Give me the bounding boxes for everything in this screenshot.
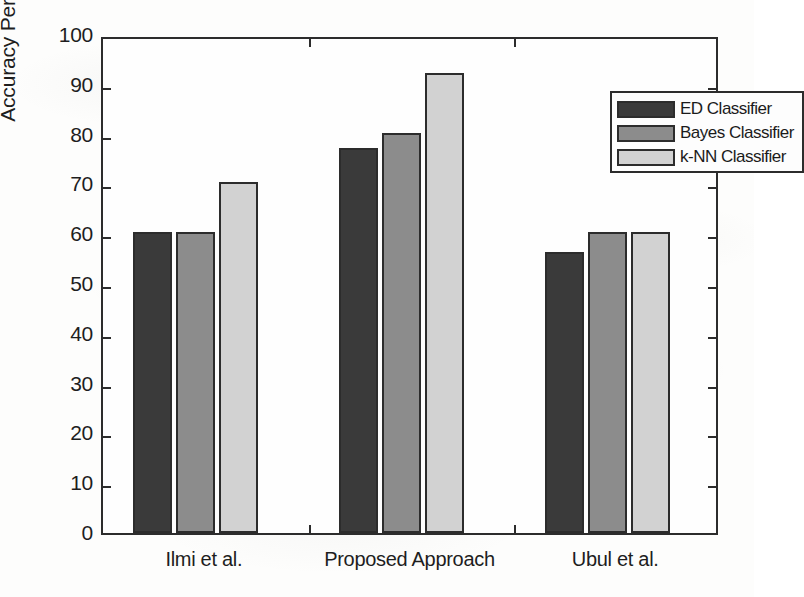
y-tick-label: 40	[33, 322, 93, 346]
y-tick-label: 30	[33, 372, 93, 396]
y-tick-mark	[708, 436, 716, 438]
x-category-label: Ilmi et al.	[94, 548, 314, 571]
y-tick-mark	[103, 486, 111, 488]
y-tick-mark	[708, 387, 716, 389]
y-tick-mark	[708, 237, 716, 239]
y-tick-mark	[708, 287, 716, 289]
bar-bayes-classifier-ubul-et-al	[588, 232, 627, 533]
y-tick-label: 90	[33, 73, 93, 97]
bar-k-nn-classifier-proposed-approach	[425, 73, 464, 533]
y-tick-mark	[708, 187, 716, 189]
y-tick-label: 50	[33, 272, 93, 296]
y-tick-mark	[103, 88, 111, 90]
y-tick-label: 80	[33, 123, 93, 147]
y-tick-label: 70	[33, 172, 93, 196]
y-tick-label: 60	[33, 222, 93, 246]
bar-ed-classifier-proposed-approach	[339, 148, 378, 533]
legend-item: Bayes Classifier	[617, 121, 797, 145]
legend-label-knn-classifier: k-NN Classifier	[680, 147, 786, 167]
x-category-label: Proposed Approach	[300, 548, 520, 571]
legend-item: ED Classifier	[617, 97, 797, 121]
y-tick-mark	[103, 337, 111, 339]
y-tick-mark	[103, 187, 111, 189]
y-tick-mark	[103, 138, 111, 140]
y-tick-mark	[708, 337, 716, 339]
bar-ed-classifier-ilmi-et-al	[133, 232, 172, 533]
y-tick-label: 0	[33, 521, 93, 545]
x-category-label: Ubul et al.	[505, 548, 725, 571]
y-tick-label: 20	[33, 421, 93, 445]
x-tick-mark	[514, 525, 516, 533]
bar-ed-classifier-ubul-et-al	[545, 252, 584, 533]
y-tick-mark	[708, 486, 716, 488]
y-axis-title: Accuracy Percentage (%)	[0, 0, 20, 150]
bar-k-nn-classifier-ilmi-et-al	[219, 182, 258, 533]
legend-swatch-bayes-classifier	[617, 125, 675, 142]
legend-item: k-NN Classifier	[617, 145, 797, 169]
bar-bayes-classifier-ilmi-et-al	[176, 232, 215, 533]
plot-area: ED Classifier Bayes Classifier k-NN Clas…	[101, 37, 718, 535]
bar-bayes-classifier-proposed-approach	[382, 133, 421, 533]
y-tick-mark	[103, 436, 111, 438]
y-tick-mark	[103, 237, 111, 239]
y-tick-label: 10	[33, 471, 93, 495]
x-tick-mark	[514, 39, 516, 47]
x-tick-mark	[309, 525, 311, 533]
legend-swatch-ed-classifier	[617, 101, 675, 118]
legend-swatch-knn-classifier	[617, 149, 675, 166]
y-tick-mark	[708, 88, 716, 90]
x-tick-mark	[309, 39, 311, 47]
legend-label-ed-classifier: ED Classifier	[680, 99, 772, 119]
y-tick-label: 100	[33, 23, 93, 47]
chart-legend: ED Classifier Bayes Classifier k-NN Clas…	[610, 91, 804, 173]
bar-k-nn-classifier-ubul-et-al	[631, 232, 670, 533]
y-tick-mark	[103, 387, 111, 389]
y-tick-mark	[103, 287, 111, 289]
legend-label-bayes-classifier: Bayes Classifier	[680, 123, 794, 143]
